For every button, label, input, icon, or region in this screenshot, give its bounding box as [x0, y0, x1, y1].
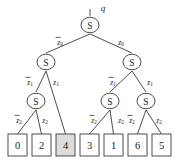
edge-label-level1-left-false: z1: [26, 77, 34, 87]
edge-label-subscript: 2: [132, 119, 135, 125]
leaf-node[interactable]: 3: [80, 134, 99, 156]
state-node-right-child[interactable]: S: [123, 54, 141, 70]
leaf-value: 6: [135, 140, 140, 151]
leaf-node[interactable]: 0: [8, 134, 27, 156]
edge-l2c-false: [138, 110, 147, 134]
edge-label-text: z2: [128, 116, 135, 126]
edge-label-subscript: 1: [30, 81, 33, 87]
edge-root-right: [90, 34, 132, 53]
state-node-left-child[interactable]: S: [37, 54, 55, 70]
decision-tree-diagram: 0243165SSSSSSqz0z0z1z1z1z1z2z2z2z2z2z2: [0, 0, 178, 161]
edge-label-subscript: 2: [121, 119, 124, 125]
leaf-value: 4: [63, 140, 69, 151]
edge-label-text: z0: [117, 38, 124, 48]
leaf-node[interactable]: 1: [104, 134, 123, 156]
edge-label-level2-a-false: z2: [15, 115, 23, 125]
leaf-value: 1: [111, 140, 116, 151]
state-node-right-left-child[interactable]: S: [101, 93, 119, 109]
edge-label-level2-b-false: z2: [90, 115, 98, 125]
edge-left-false: [36, 71, 46, 92]
edge-label-level2-c-true: z2: [155, 116, 162, 126]
edge-label-level2-a-true: z2: [41, 116, 48, 126]
edge-label-subscript: 1: [113, 81, 116, 87]
edge-label-text: z0: [56, 38, 63, 48]
edge-label-text: z2: [15, 116, 22, 126]
edge-label-level1-right-false: z1: [109, 77, 117, 87]
edge-label-level0-false: z0: [56, 37, 64, 47]
figure-canvas: 0243165SSSSSSqz0z0z1z1z1z1z2z2z2z2z2z2: [0, 0, 178, 161]
state-node-left-left-child[interactable]: S: [27, 93, 45, 109]
node-symbol: S: [87, 21, 92, 31]
node-symbol: S: [43, 58, 48, 68]
edge-label-subscript: 2: [94, 119, 97, 125]
leaf-value: 0: [15, 140, 20, 151]
root-input-label: q: [101, 3, 106, 13]
edge-label-text: z1: [26, 78, 33, 88]
edge-label-subscript: 1: [56, 81, 59, 87]
edge-label-text: z2: [155, 116, 162, 126]
edge-label-text: z2: [117, 116, 124, 126]
node-symbol: S: [129, 58, 134, 68]
state-node-root[interactable]: S: [81, 17, 99, 33]
edge-right-true: [132, 71, 146, 92]
edge-l2b-true: [110, 110, 114, 134]
leaf-node[interactable]: 4: [56, 134, 75, 156]
node-symbol: S: [33, 97, 38, 107]
edge-label-text: z1: [52, 78, 59, 88]
node-symbol: S: [143, 97, 148, 107]
edge-label-text: z1: [109, 78, 116, 88]
edge-label-level0-true: z0: [117, 38, 124, 48]
edge-label-subscript: 0: [60, 41, 63, 47]
state-node-right-right-child[interactable]: S: [137, 93, 155, 109]
edge-label-text: z2: [41, 116, 48, 126]
leaf-value: 3: [87, 140, 92, 151]
edge-label-text: z1: [146, 78, 153, 88]
edge-label-text: z2: [90, 116, 97, 126]
edge-l2a-true: [36, 110, 42, 134]
edge-label-level2-b-true: z2: [117, 116, 124, 126]
edge-root-left: [46, 34, 90, 53]
leaf-value: 2: [39, 140, 44, 151]
edge-label-subscript: 0: [121, 41, 124, 47]
edge-label-subscript: 1: [150, 81, 153, 87]
edge-label-subscript: 2: [45, 119, 48, 125]
leaf-value: 5: [159, 140, 164, 151]
leaf-node[interactable]: 2: [32, 134, 51, 156]
edge-label-level1-left-true: z1: [52, 78, 59, 88]
leaf-node[interactable]: 6: [128, 134, 147, 156]
node-symbol: S: [107, 97, 112, 107]
leaf-node[interactable]: 5: [152, 134, 171, 156]
edge-label-level1-right-true: z1: [146, 78, 153, 88]
edge-label-level2-c-false: z2: [128, 115, 136, 125]
edge-label-subscript: 2: [19, 119, 22, 125]
edge-label-subscript: 2: [159, 119, 162, 125]
